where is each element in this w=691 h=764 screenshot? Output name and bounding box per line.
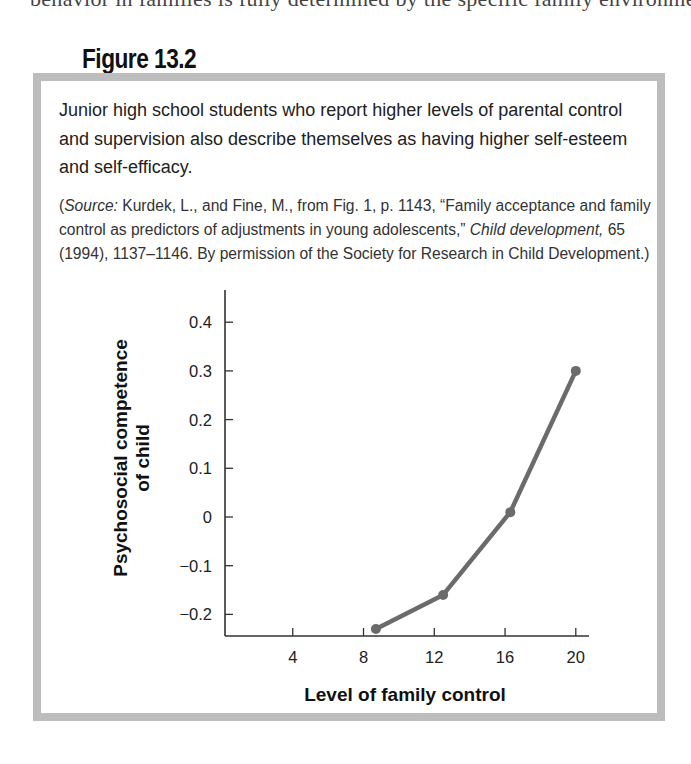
- y-tick-label: 0.3: [189, 362, 212, 380]
- series-line: [376, 371, 576, 629]
- data-point-marker: [438, 590, 448, 600]
- x-tick-label: 8: [359, 648, 368, 666]
- data-point-marker: [371, 624, 381, 634]
- x-axis: 48121620: [225, 628, 589, 666]
- x-tick-label: 12: [425, 648, 443, 666]
- y-tick-label: 0.1: [189, 459, 212, 477]
- x-tick-label: 20: [567, 648, 585, 666]
- data-point-marker: [505, 507, 515, 517]
- y-tick-label: −0.1: [179, 557, 212, 575]
- y-axis-label-line-1: Psychosocial competence: [110, 339, 131, 577]
- y-tick-label: 0.2: [189, 411, 212, 429]
- line-chart: 0.40.30.20.10−0.1−0.2 48121620 Psychosoc…: [0, 0, 691, 764]
- figure-frame: Junior high school students who report h…: [33, 73, 665, 721]
- y-axis: 0.40.30.20.10−0.1−0.2: [179, 290, 233, 636]
- x-axis-label: Level of family control: [304, 684, 506, 705]
- y-tick-label: −0.2: [179, 605, 212, 623]
- y-axis-label-line-2: of child: [132, 424, 153, 492]
- x-tick-label: 16: [496, 648, 514, 666]
- data-point-marker: [571, 366, 581, 376]
- y-tick-label: 0: [203, 508, 212, 526]
- x-axis-ticks: 48121620: [288, 628, 585, 666]
- y-tick-label: 0.4: [189, 313, 212, 331]
- y-axis-label: Psychosocial competence of child: [110, 339, 153, 577]
- x-tick-label: 4: [288, 648, 297, 666]
- data-series: [371, 366, 581, 634]
